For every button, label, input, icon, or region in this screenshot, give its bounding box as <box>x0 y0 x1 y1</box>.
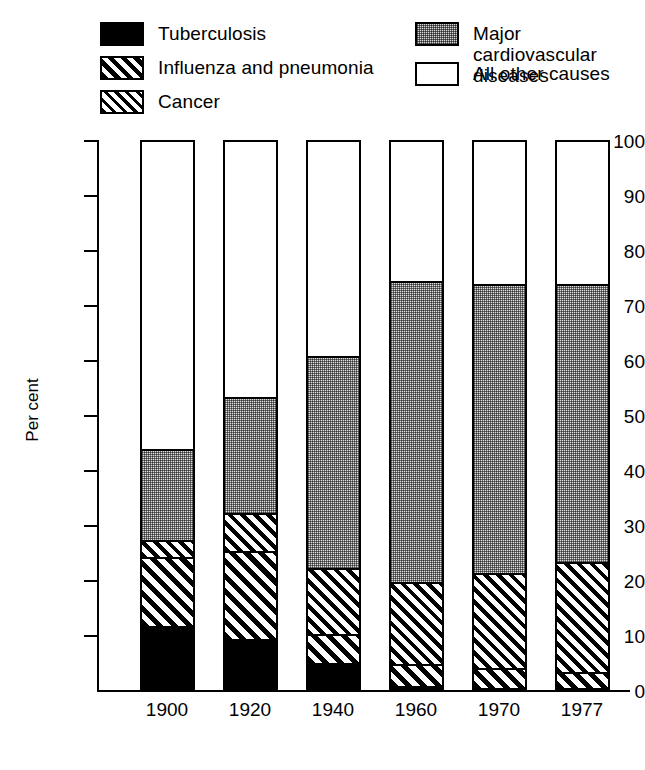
y-tick-100 <box>84 140 97 142</box>
bar-1977 <box>555 140 610 691</box>
y-tick-50 <box>84 415 97 417</box>
y-axis-line <box>97 140 99 691</box>
bar-1960 <box>389 140 444 691</box>
segment-1970-tuberculosis <box>474 688 525 689</box>
segment-1900-tuberculosis <box>142 626 193 689</box>
y-tick-70 <box>84 305 97 307</box>
segment-1977-tuberculosis <box>557 688 608 689</box>
segment-1960-all-other <box>391 140 442 281</box>
x-tick-label-1920: 1920 <box>210 700 290 720</box>
segment-1940-all-other <box>308 140 359 356</box>
x-tick-label-1900: 1900 <box>127 700 207 720</box>
segment-1900-cardiovascular <box>142 449 193 540</box>
segment-1970-cardiovascular <box>474 284 525 573</box>
segment-1920-cardiovascular <box>225 397 276 513</box>
x-tick-label-1970: 1970 <box>459 700 539 720</box>
segment-1920-tuberculosis <box>225 639 276 689</box>
x-tick-label-1940: 1940 <box>293 700 373 720</box>
chart-figure: Tuberculosis Influenza and pneumonia Can… <box>0 0 645 770</box>
segment-1970-cancer <box>474 573 525 668</box>
segment-1960-influenza-pneumonia <box>391 664 442 686</box>
y-tick-30 <box>84 525 97 527</box>
y-tick-20 <box>84 580 97 582</box>
segment-1977-all-other <box>557 140 608 284</box>
x-tick-label-1977: 1977 <box>542 700 622 720</box>
bar-1920 <box>223 140 278 691</box>
bar-1970 <box>472 140 527 691</box>
y-tick-80 <box>84 250 97 252</box>
y-tick-40 <box>84 470 97 472</box>
y-axis-title: Per cent <box>23 355 43 465</box>
y-tick-10 <box>84 635 97 637</box>
y-tick-60 <box>84 360 97 362</box>
segment-1920-cancer <box>225 513 276 552</box>
segment-1940-cancer <box>308 568 359 634</box>
segment-1977-cardiovascular <box>557 284 608 562</box>
segment-1900-all-other <box>142 140 193 449</box>
segment-1960-cardiovascular <box>391 281 442 581</box>
segment-1900-influenza-pneumonia <box>142 557 193 626</box>
x-tick-label-1960: 1960 <box>376 700 456 720</box>
segment-1977-influenza-pneumonia <box>557 672 608 687</box>
segment-1960-tuberculosis <box>391 686 442 689</box>
segment-1960-cancer <box>391 582 442 664</box>
y-tick-90 <box>84 195 97 197</box>
segment-1920-all-other <box>225 140 276 397</box>
segment-1900-cancer <box>142 540 193 557</box>
bar-1940 <box>306 140 361 691</box>
segment-1940-influenza-pneumonia <box>308 634 359 663</box>
chart-plot-area: Per cent 100 90 80 70 60 50 40 30 20 10 … <box>0 0 645 770</box>
segment-1970-influenza-pneumonia <box>474 668 525 688</box>
segment-1940-tuberculosis <box>308 663 359 689</box>
segment-1920-influenza-pneumonia <box>225 551 276 639</box>
bar-1900 <box>140 140 195 691</box>
segment-1940-cardiovascular <box>308 356 359 568</box>
segment-1977-cancer <box>557 562 608 672</box>
segment-1970-all-other <box>474 140 525 284</box>
